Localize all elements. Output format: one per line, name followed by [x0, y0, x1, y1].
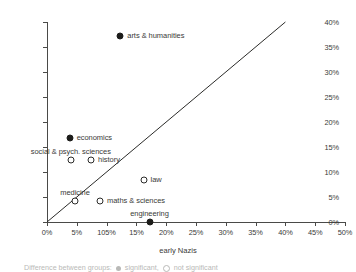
caption-text: Difference between groups: [24, 263, 112, 272]
y-tick [43, 47, 47, 48]
data-point-marker[interactable] [117, 32, 124, 39]
x-tick [315, 222, 316, 226]
x-tick-label: 0% [42, 228, 52, 237]
x-tick-label: 15% [129, 228, 144, 237]
filled-dot-icon [116, 266, 121, 271]
data-point-label: engineering [130, 209, 169, 218]
data-point-marker[interactable] [97, 197, 104, 204]
x-tick-label: 45% [308, 228, 323, 237]
y-tick [43, 97, 47, 98]
caption-significant: significant, [125, 263, 159, 272]
caption-not-significant: not significant [174, 263, 218, 272]
data-point-marker[interactable] [146, 219, 153, 226]
data-point-label: history [98, 155, 120, 164]
x-axis-title: early Nazis [0, 246, 356, 255]
x-tick [345, 222, 346, 226]
y-tick [43, 72, 47, 73]
x-tick-label: 20% [159, 228, 174, 237]
y-tick-label: 5% [329, 193, 339, 202]
x-tick-label: 105% [97, 228, 116, 237]
data-point-label: economics [77, 133, 112, 142]
data-point-label: arts & humanities [127, 31, 184, 40]
x-tick [47, 222, 48, 226]
x-tick [136, 222, 137, 226]
data-point-marker[interactable] [67, 156, 74, 163]
x-tick-label: 5% [72, 228, 82, 237]
diagonal-reference-line [47, 22, 345, 222]
y-tick-label: 0% [329, 218, 339, 227]
x-tick [226, 222, 227, 226]
x-tick [77, 222, 78, 226]
x-tick [196, 222, 197, 226]
legend-caption: Difference between groups: significant, … [24, 263, 218, 272]
data-point-label: maths & sciences [107, 196, 165, 205]
data-point-label: law [151, 175, 162, 184]
x-tick [166, 222, 167, 226]
y-tick [43, 122, 47, 123]
y-tick-label: 25% [325, 93, 340, 102]
data-point-marker[interactable] [72, 197, 79, 204]
x-tick-label: 25% [189, 228, 204, 237]
y-tick-label: 30% [325, 68, 340, 77]
x-tick-label: 30% [219, 228, 234, 237]
data-point-marker[interactable] [140, 176, 147, 183]
y-tick-label: 20% [325, 118, 340, 127]
y-tick-label: 35% [325, 43, 340, 52]
x-tick [285, 222, 286, 226]
y-tick-label: 15% [325, 143, 340, 152]
data-point-marker[interactable] [66, 134, 73, 141]
y-tick [43, 22, 47, 23]
data-point-marker[interactable] [88, 156, 95, 163]
open-dot-icon [163, 265, 170, 272]
y-tick-label: 40% [325, 18, 340, 27]
x-tick-label: 35% [248, 228, 263, 237]
y-tick [43, 172, 47, 173]
plot-area: 0%5%105%15%20%25%30%35%40%45%50% 0%5%10%… [47, 22, 345, 222]
y-tick [43, 197, 47, 198]
x-tick [256, 222, 257, 226]
y-tick-label: 10% [325, 168, 340, 177]
x-tick [107, 222, 108, 226]
data-point-label: medicine [60, 188, 90, 197]
x-tick-label: 40% [278, 228, 293, 237]
y-tick [43, 222, 47, 223]
x-tick-label: 50% [338, 228, 353, 237]
